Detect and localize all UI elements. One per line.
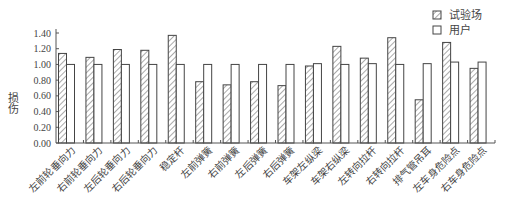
bar-user	[94, 64, 102, 143]
bar-test-field	[305, 66, 313, 143]
bar-chart: 0.000.200.400.600.801.001.201.40 左前轮垂向力右…	[0, 0, 508, 207]
bar-user	[231, 64, 239, 143]
legend-swatch-hatched	[433, 11, 441, 19]
y-tick-label: 1.20	[34, 43, 52, 54]
y-tick-label: 0.40	[34, 106, 52, 117]
bar-user	[478, 62, 486, 143]
bar-test-field	[168, 35, 176, 143]
bars	[59, 35, 487, 143]
bar-test-field	[113, 50, 121, 144]
bar-test-field	[388, 38, 396, 143]
y-tick-label: 0.00	[34, 138, 52, 149]
bar-test-field	[333, 46, 341, 143]
bar-test-field	[443, 42, 451, 143]
bar-user	[259, 64, 267, 143]
bar-user	[121, 64, 129, 143]
bar-test-field	[141, 50, 149, 143]
bar-test-field	[196, 82, 204, 143]
legend: 试验场用户	[433, 8, 482, 37]
bar-user	[451, 62, 459, 143]
legend-swatch-empty	[433, 26, 441, 34]
bar-test-field	[59, 53, 67, 143]
y-axis-label: 损伤	[6, 91, 20, 115]
x-axis: 左前轮垂向力右前轮垂向力左后轮垂向力右后轮垂向力稳定杆左前弹簧右前弹簧左后弹簧右…	[26, 140, 495, 195]
bar-user	[204, 64, 212, 143]
y-tick-label: 0.20	[34, 122, 52, 133]
bar-test-field	[470, 68, 478, 143]
bar-user	[368, 64, 376, 143]
bar-test-field	[223, 85, 231, 143]
y-tick-label: 0.60	[34, 90, 52, 101]
bar-test-field	[86, 57, 94, 143]
bar-test-field	[360, 58, 368, 143]
y-tick-label: 0.80	[34, 75, 52, 86]
legend-label: 试验场	[449, 8, 482, 22]
bar-test-field	[415, 100, 423, 143]
bar-user	[396, 64, 404, 143]
bar-user	[67, 64, 75, 143]
y-axis: 0.000.200.400.600.801.001.201.40	[34, 28, 60, 149]
y-tick-label: 1.40	[34, 28, 52, 39]
legend-label: 用户	[449, 23, 471, 37]
bar-test-field	[251, 82, 259, 143]
bar-user	[176, 64, 184, 143]
y-tick-label: 1.00	[34, 59, 52, 70]
bar-test-field	[278, 86, 286, 143]
bar-user	[423, 64, 431, 143]
bar-user	[341, 64, 349, 143]
bar-user	[313, 64, 321, 143]
bar-user	[286, 64, 294, 143]
bar-user	[149, 64, 157, 143]
